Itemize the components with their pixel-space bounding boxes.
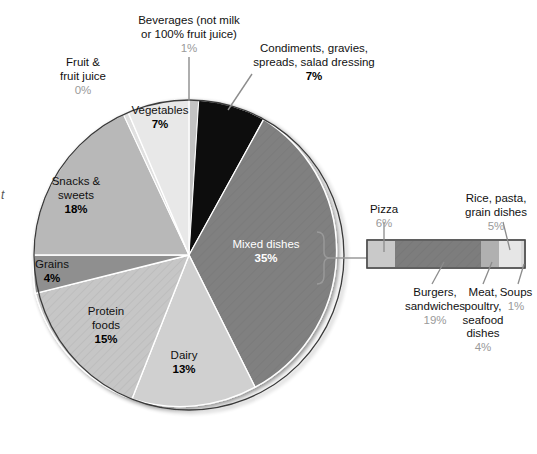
label-condiments: Condiments, gravies, spreads, salad dres… [224,42,404,84]
breakout-bar [367,240,525,268]
label-mixed-dishes-pct: 35% [218,252,314,266]
label-condiments-pct: 7% [224,70,404,84]
label-pizza-name: Pizza [353,203,415,217]
figure-canvas: t Beverages (not milk or 100% fruit juic… [0,0,537,454]
label-fruit-juice: Fruit & fruit juice 0% [39,56,127,98]
bar-segment-pizza[interactable] [368,241,395,267]
label-protein-foods-name: Protein foods [65,305,147,333]
label-soups-pct: 1% [493,300,537,314]
label-vegetables-pct: 7% [114,118,206,132]
label-grains-pct: 4% [11,272,93,286]
label-rice-pasta-name: Rice, pasta, grain dishes [455,192,537,220]
label-soups: Soups 1% [493,286,537,314]
label-snacks-sweets-name: Snacks & sweets [28,175,124,203]
label-mixed-dishes-name: Mixed dishes [218,238,314,252]
label-meat-poultry-pct: 4% [455,341,511,355]
label-dairy-name: Dairy [149,349,219,363]
bar-segment-rice-pasta[interactable] [499,241,521,267]
label-snacks-sweets: Snacks & sweets 18% [28,175,124,216]
label-dairy: Dairy 13% [149,349,219,377]
label-fruit-juice-pct: 0% [39,84,127,98]
label-rice-pasta-pct: 5% [455,220,537,234]
label-rice-pasta: Rice, pasta, grain dishes 5% [455,192,537,233]
bar-segment-soups[interactable] [521,241,524,267]
label-protein-foods-pct: 15% [65,333,147,347]
label-condiments-name: Condiments, gravies, spreads, salad dres… [224,42,404,69]
label-soups-name: Soups [493,286,537,300]
label-pizza-pct: 6% [353,217,415,231]
label-beverages-name: Beverages (not milk or 100% fruit juice) [109,14,269,41]
label-grains-name: Grains [11,258,93,272]
label-mixed-dishes: Mixed dishes 35% [218,238,314,266]
label-dairy-pct: 13% [149,363,219,377]
label-pizza: Pizza 6% [353,203,415,231]
label-fruit-juice-name: Fruit & fruit juice [39,56,127,83]
bar-segment-meat-poultry[interactable] [481,241,499,267]
bar-segment-burgers[interactable] [395,241,481,267]
label-vegetables: Vegetables 7% [114,104,206,132]
label-vegetables-name: Vegetables [114,104,206,118]
label-protein-foods: Protein foods 15% [65,305,147,346]
label-snacks-sweets-pct: 18% [28,203,124,217]
cropped-edge-glyph: t [1,188,4,202]
label-grains: Grains 4% [11,258,93,286]
